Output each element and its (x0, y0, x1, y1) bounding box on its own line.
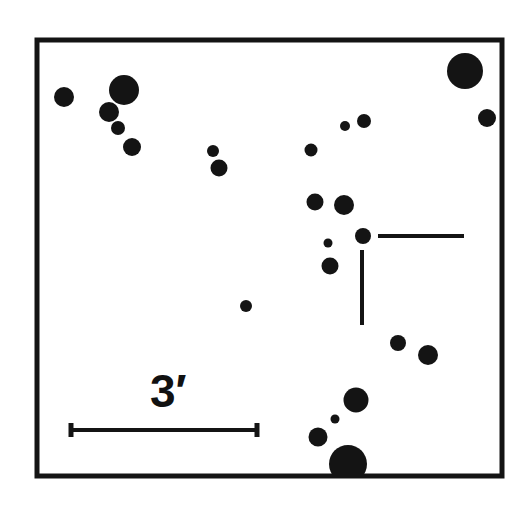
star (418, 345, 438, 365)
star (390, 335, 406, 351)
star (344, 388, 369, 413)
star (334, 195, 354, 215)
star (54, 87, 74, 107)
star (447, 53, 483, 89)
star (322, 258, 339, 275)
star (355, 228, 371, 244)
star (331, 415, 340, 424)
star (123, 138, 141, 156)
star (99, 102, 119, 122)
target-crosshair-marker (362, 236, 464, 325)
star (478, 109, 496, 127)
star (211, 160, 228, 177)
star (340, 121, 350, 131)
scale-bar-label: 3′ (150, 368, 187, 414)
star (240, 300, 252, 312)
finder-chart (0, 0, 529, 508)
scale-bar (71, 423, 257, 437)
star (305, 144, 318, 157)
star (307, 194, 324, 211)
star (207, 145, 219, 157)
star (309, 428, 328, 447)
star (109, 75, 139, 105)
star (357, 114, 371, 128)
star (324, 239, 333, 248)
star (111, 121, 125, 135)
star-field (54, 53, 496, 483)
